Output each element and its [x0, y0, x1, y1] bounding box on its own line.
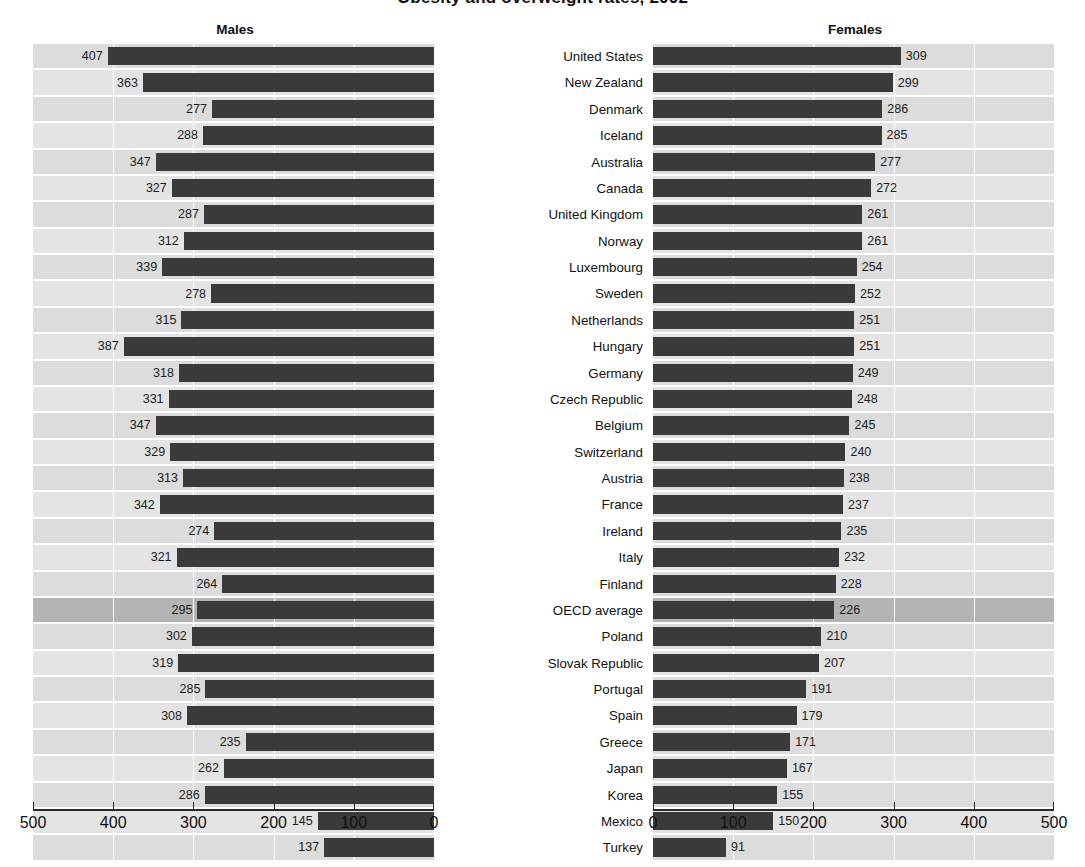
bar-value-label: 407	[82, 49, 103, 63]
bar	[170, 443, 434, 461]
bar	[653, 575, 836, 593]
females-axis-line	[653, 809, 1054, 811]
bar-row: 277	[653, 150, 1054, 176]
axis-tick-label: 500	[1041, 814, 1068, 832]
bar-row: 228	[653, 572, 1054, 598]
axis-tick-label: 300	[180, 814, 207, 832]
bar	[653, 759, 787, 777]
bar-value-label: 251	[859, 339, 880, 353]
bar	[172, 179, 434, 197]
axis-tick	[653, 802, 654, 811]
category-label: Norway	[446, 229, 646, 255]
bar-value-label: 312	[158, 234, 179, 248]
bar	[156, 153, 434, 171]
bar	[653, 153, 875, 171]
bar-value-label: 319	[152, 656, 173, 670]
bar-value-label: 321	[151, 550, 172, 564]
bar-row: 238	[653, 466, 1054, 492]
bar	[156, 416, 434, 434]
bar-value-label: 387	[98, 339, 119, 353]
bar-value-label: 264	[196, 577, 217, 591]
bar-value-label: 308	[161, 709, 182, 723]
bar-row: 285	[33, 677, 434, 703]
bar	[162, 258, 434, 276]
males-panel-title: Males	[110, 22, 360, 37]
axis-tick-label: 400	[100, 814, 127, 832]
category-label: Italy	[446, 545, 646, 571]
chart-figure: Obesity and overweight rates, 2002 Males…	[0, 0, 1085, 867]
category-label: Denmark	[446, 97, 646, 123]
category-label: Hungary	[446, 334, 646, 360]
category-label: Ireland	[446, 519, 646, 545]
bar-value-label: 261	[867, 207, 888, 221]
category-label: Czech Republic	[446, 387, 646, 413]
bar	[214, 522, 434, 540]
axis-tick	[733, 802, 734, 811]
bar-row: 240	[653, 440, 1054, 466]
bar-row: 277	[33, 97, 434, 123]
bar-row: 318	[33, 361, 434, 387]
bar-value-label: 237	[848, 498, 869, 512]
bar-value-label: 313	[157, 471, 178, 485]
category-label: Spain	[446, 703, 646, 729]
bar-row: 347	[33, 150, 434, 176]
bar	[169, 390, 434, 408]
bar-row: 312	[33, 229, 434, 255]
category-label: Finland	[446, 572, 646, 598]
bar	[203, 126, 434, 144]
bar-value-label: 295	[172, 603, 193, 617]
bar-row: 237	[653, 492, 1054, 518]
bar-value-label: 278	[185, 287, 206, 301]
axis-tick-label: 100	[340, 814, 367, 832]
bar-row: 339	[33, 255, 434, 281]
bar	[653, 601, 834, 619]
category-label: Korea	[446, 783, 646, 809]
bar-value-label: 238	[849, 471, 870, 485]
bar-row: 342	[33, 492, 434, 518]
category-label-column: United StatesNew ZealandDenmarkIcelandAu…	[446, 44, 646, 809]
bar-value-label: 167	[792, 761, 813, 775]
figure-title-clipped: Obesity and overweight rates, 2002	[0, 0, 1085, 9]
axis-tick-label: 500	[20, 814, 47, 832]
axis-tick-label: 300	[880, 814, 907, 832]
bar-value-label: 245	[854, 418, 875, 432]
bar-value-label: 329	[144, 445, 165, 459]
bar-value-label: 274	[188, 524, 209, 538]
bar-value-label: 327	[146, 181, 167, 195]
bar-value-label: 299	[898, 76, 919, 90]
bar-value-label: 286	[179, 788, 200, 802]
category-label: Switzerland	[446, 440, 646, 466]
bar	[653, 706, 797, 724]
bar-row: 285	[653, 123, 1054, 149]
bar-row: 327	[33, 176, 434, 202]
bar	[246, 733, 434, 751]
category-label: Mexico	[446, 809, 646, 835]
category-label: Germany	[446, 361, 646, 387]
bar-row: 191	[653, 677, 1054, 703]
bar	[653, 654, 819, 672]
bar-row: 319	[33, 651, 434, 677]
bar-row: 329	[33, 440, 434, 466]
axis-tick-label: 0	[430, 814, 439, 832]
axis-tick	[274, 802, 275, 811]
bar	[653, 100, 882, 118]
bar	[181, 311, 434, 329]
figure-title: Obesity and overweight rates, 2002	[0, 0, 1085, 8]
bar-row: 179	[653, 703, 1054, 729]
bar-row: 155	[653, 783, 1054, 809]
bar-row: 347	[33, 413, 434, 439]
bar	[653, 284, 855, 302]
category-label: Australia	[446, 150, 646, 176]
bar-value-label: 285	[887, 128, 908, 142]
bar-value-label: 339	[136, 260, 157, 274]
category-label: Canada	[446, 176, 646, 202]
bar	[222, 575, 434, 593]
bar-value-label: 251	[859, 313, 880, 327]
bar	[183, 469, 434, 487]
axis-tick-label: 100	[720, 814, 747, 832]
axis-tick-label: 200	[260, 814, 287, 832]
bar-row: 309	[653, 44, 1054, 70]
bar	[653, 522, 841, 540]
bar-value-label: 210	[826, 629, 847, 643]
bar-value-label: 347	[130, 155, 151, 169]
